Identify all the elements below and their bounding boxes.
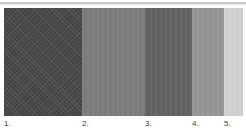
- color-swatch-3[interactable]: [145, 8, 192, 116]
- swatch-caption-row: 1. 2. 3. 4. 5.: [4, 118, 243, 132]
- swatch-caption-5: 5.: [224, 118, 231, 130]
- swatch-caption-2: 2.: [82, 118, 89, 130]
- color-swatch-1[interactable]: [4, 8, 82, 116]
- color-swatch-2[interactable]: [82, 8, 145, 116]
- color-swatch-4[interactable]: [192, 8, 224, 116]
- swatch-figure: 1. 2. 3. 4. 5.: [0, 0, 246, 133]
- swatch-caption-3: 3.: [145, 118, 152, 130]
- swatch-caption-4: 4.: [192, 118, 199, 130]
- top-divider-rule-soft: [0, 4, 246, 5]
- color-swatch-band: [4, 8, 243, 116]
- swatch-caption-1: 1.: [4, 118, 11, 130]
- color-swatch-5[interactable]: [224, 8, 243, 116]
